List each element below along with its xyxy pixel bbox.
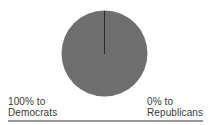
republicans-label: 0% to Republicans: [147, 96, 203, 118]
democrats-party: Democrats: [8, 107, 57, 118]
democrats-percent: 100% to: [8, 96, 57, 107]
republicans-party: Republicans: [147, 107, 203, 118]
democrats-label: 100% to Democrats: [8, 96, 57, 118]
baseline-rule: [8, 120, 203, 122]
republicans-percent: 0% to: [147, 96, 203, 107]
pie-chart: 100% to Democrats 0% to Republicans: [0, 0, 209, 125]
pie-graphic: [61, 10, 149, 98]
